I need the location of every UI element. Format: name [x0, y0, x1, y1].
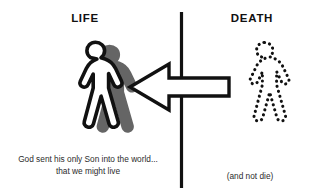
life-caption: God sent his only Son into the world... … [0, 153, 176, 177]
illustration-canvas: LIFE DEATH God sent his only Son into th… [0, 0, 309, 196]
walking-person-dotted-icon [238, 38, 300, 136]
death-caption: (and not die) [196, 170, 304, 182]
life-caption-line-1: God sent his only Son into the world... [0, 153, 176, 165]
death-figure-dotted-outline [250, 43, 289, 121]
life-caption-line-2: that we might live [0, 165, 176, 177]
arrow-outline [130, 64, 229, 110]
block-arrow-left-icon [126, 60, 232, 114]
